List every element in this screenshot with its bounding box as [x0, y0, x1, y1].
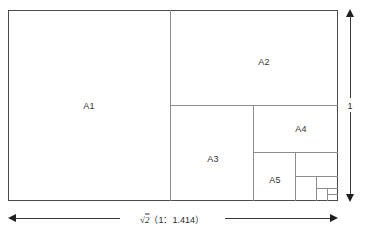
- width-dim-label: √2（1：1.414）: [137, 213, 207, 226]
- region-label-a2: A2: [258, 58, 269, 67]
- height-dim-line-lower: [350, 112, 351, 195]
- width-arrow-right-head: [330, 214, 338, 222]
- divider-a2-a3: [170, 105, 338, 106]
- region-label-a4: A4: [295, 125, 306, 134]
- divider-a3-a4: [253, 105, 254, 201]
- height-dim-line-upper: [350, 16, 351, 102]
- region-label-a5: A5: [269, 176, 280, 185]
- divider-a10-a11: [327, 194, 338, 195]
- region-label-a3: A3: [207, 155, 218, 164]
- region-label-a1: A1: [83, 102, 94, 111]
- height-arrow-bottom-head: [346, 194, 354, 202]
- width-dim-line-left: [15, 218, 120, 219]
- paper-size-diagram: A1 A2 A3 A4 A5 1 √2（1：1.414）: [0, 0, 365, 244]
- width-dim-line-right: [225, 218, 330, 219]
- width-ratio-text: （1：1.414）: [149, 215, 204, 225]
